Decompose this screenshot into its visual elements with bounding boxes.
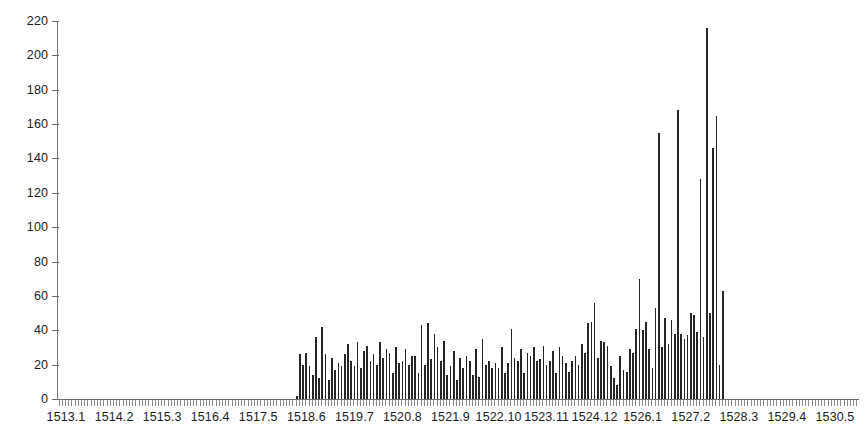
bar bbox=[450, 366, 452, 399]
x-axis-tick bbox=[635, 400, 636, 406]
x-axis-tick bbox=[821, 400, 822, 406]
bar bbox=[530, 356, 532, 399]
bar bbox=[430, 359, 432, 399]
y-axis-tick-label: 180 bbox=[2, 84, 48, 97]
x-axis-tick bbox=[501, 400, 502, 406]
bar bbox=[347, 344, 349, 399]
x-axis-tick bbox=[421, 400, 422, 406]
bar bbox=[366, 346, 368, 399]
bar bbox=[613, 378, 615, 399]
x-axis-tick bbox=[706, 400, 707, 406]
x-axis-tick bbox=[203, 400, 204, 406]
bar bbox=[674, 334, 676, 399]
x-axis-tick bbox=[792, 400, 793, 406]
x-axis-tick bbox=[299, 400, 300, 406]
x-axis-tick bbox=[328, 400, 329, 406]
bar bbox=[363, 351, 365, 399]
bar bbox=[373, 354, 375, 399]
x-axis-tick bbox=[414, 400, 415, 406]
y-axis-tick-label-wrap: 160 bbox=[0, 118, 48, 130]
bar bbox=[597, 358, 599, 399]
bar bbox=[338, 363, 340, 399]
x-axis-tick bbox=[75, 400, 76, 406]
bar bbox=[466, 356, 468, 399]
bar bbox=[402, 361, 404, 399]
bar bbox=[658, 133, 660, 399]
x-axis-tick bbox=[286, 400, 287, 406]
x-axis-tick-label: 1518.6 bbox=[287, 411, 326, 424]
x-axis-tick bbox=[309, 400, 310, 406]
x-axis-tick bbox=[603, 400, 604, 406]
x-axis-tick bbox=[405, 400, 406, 406]
x-axis-tick bbox=[123, 400, 124, 406]
bar bbox=[645, 322, 647, 399]
bar bbox=[520, 349, 522, 399]
x-axis-tick-label: 1522.10 bbox=[476, 411, 522, 424]
x-axis-tick bbox=[488, 400, 489, 406]
y-axis-tick-label: 80 bbox=[2, 256, 48, 269]
bar bbox=[440, 361, 442, 399]
bar bbox=[587, 323, 589, 399]
x-axis-tick bbox=[190, 400, 191, 406]
bar bbox=[498, 368, 500, 399]
bar bbox=[523, 373, 525, 399]
bar bbox=[507, 363, 509, 399]
bar bbox=[677, 110, 679, 399]
x-axis-tick-label: 1527.2 bbox=[671, 411, 710, 424]
bar bbox=[418, 373, 420, 399]
bar bbox=[344, 354, 346, 399]
x-axis-tick bbox=[142, 400, 143, 406]
y-axis-tick-label-wrap: 120 bbox=[0, 187, 48, 199]
bar bbox=[511, 329, 513, 399]
bar bbox=[456, 380, 458, 399]
x-axis-tick bbox=[578, 400, 579, 406]
x-axis-tick bbox=[209, 400, 210, 406]
x-axis-tick bbox=[459, 400, 460, 406]
bar bbox=[684, 339, 686, 399]
x-axis-tick bbox=[696, 400, 697, 406]
x-axis-tick bbox=[536, 400, 537, 406]
x-axis-tick bbox=[424, 400, 425, 406]
x-axis-tick bbox=[610, 400, 611, 406]
x-axis-tick bbox=[350, 400, 351, 406]
x-axis-tick bbox=[398, 400, 399, 406]
x-axis-tick bbox=[514, 400, 515, 406]
bar bbox=[443, 341, 445, 399]
x-axis-tick bbox=[241, 400, 242, 406]
bar bbox=[722, 291, 724, 399]
bar bbox=[427, 323, 429, 399]
x-axis-tick bbox=[395, 400, 396, 406]
x-axis-tick bbox=[760, 400, 761, 406]
x-axis-tick bbox=[174, 400, 175, 406]
x-axis-tick bbox=[549, 400, 550, 406]
x-axis-tick bbox=[600, 400, 601, 406]
y-axis-tick-label-wrap: 40 bbox=[0, 324, 48, 336]
x-axis-tick bbox=[68, 400, 69, 406]
x-axis-tick bbox=[552, 400, 553, 406]
x-axis-labels: 1513.11514.21515.31516.41517.51518.61519… bbox=[0, 411, 865, 431]
bar bbox=[693, 315, 695, 399]
x-axis-tick bbox=[94, 400, 95, 406]
x-axis-tick bbox=[305, 400, 306, 406]
x-axis-tick bbox=[312, 400, 313, 406]
x-axis-tick bbox=[606, 400, 607, 406]
bar bbox=[607, 346, 609, 399]
x-axis-tick bbox=[71, 400, 72, 406]
bar bbox=[354, 366, 356, 399]
x-axis-tick bbox=[360, 400, 361, 406]
x-axis-tick-label: 1520.8 bbox=[383, 411, 422, 424]
x-axis-tick bbox=[747, 400, 748, 406]
x-axis-tick bbox=[751, 400, 752, 406]
x-axis-tick bbox=[719, 400, 720, 406]
x-axis-tick bbox=[658, 400, 659, 406]
bar bbox=[661, 347, 663, 399]
x-axis-tick bbox=[148, 400, 149, 406]
x-axis-tick bbox=[385, 400, 386, 406]
x-axis-tick bbox=[850, 400, 851, 406]
x-axis-tick bbox=[847, 400, 848, 406]
x-axis-tick bbox=[347, 400, 348, 406]
x-axis-tick bbox=[219, 400, 220, 406]
bar bbox=[700, 179, 702, 399]
x-axis-tick bbox=[184, 400, 185, 406]
x-axis-tick bbox=[392, 400, 393, 406]
